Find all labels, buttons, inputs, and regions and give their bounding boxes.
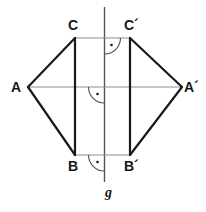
right-angle-at-BBp bbox=[89, 155, 105, 171]
right-angle-at-CCp bbox=[105, 38, 121, 54]
point-label-C-prime: C´ bbox=[124, 18, 139, 32]
point-label-B-prime: B´ bbox=[124, 159, 139, 173]
diagram-canvas: C C´ A A´ B B´ g bbox=[0, 0, 206, 212]
symmetry-figure bbox=[0, 0, 206, 212]
right-angle-at-AAp bbox=[89, 87, 105, 103]
point-label-B: B bbox=[68, 159, 78, 173]
segment-A-C bbox=[28, 38, 75, 87]
segment-Ap-Cp bbox=[130, 38, 182, 87]
segment-Ap-Bp bbox=[130, 87, 182, 155]
axis-label-g: g bbox=[105, 186, 112, 200]
point-label-A: A bbox=[11, 80, 21, 94]
segment-A-B bbox=[28, 87, 75, 155]
point-label-C: C bbox=[68, 18, 78, 32]
point-label-A-prime: A´ bbox=[184, 80, 199, 94]
